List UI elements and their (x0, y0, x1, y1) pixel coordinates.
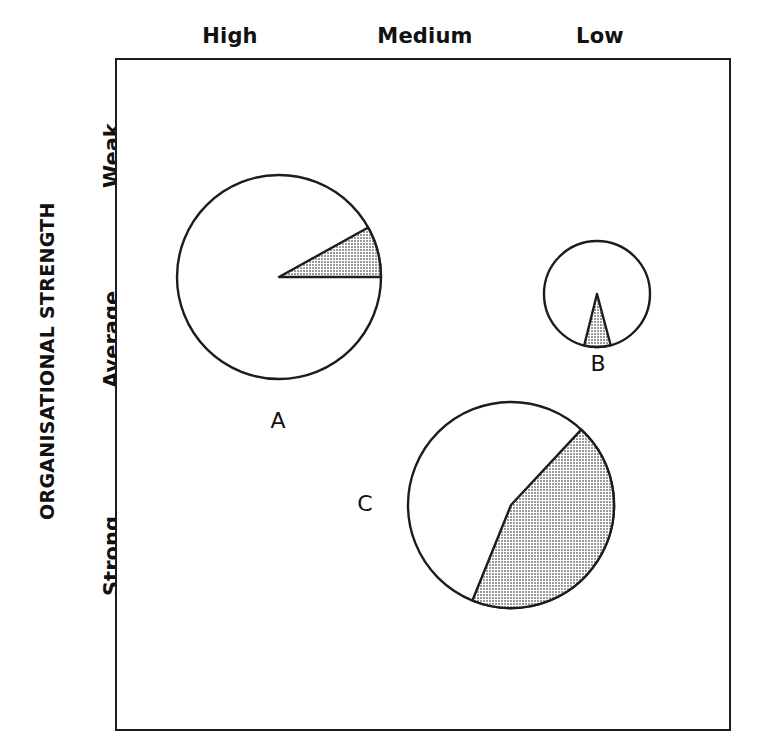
column-label-high: High (160, 24, 300, 48)
matrix-pie-chart-figure: High Medium Low Weak Average Strong ORGA… (0, 0, 760, 752)
pie-label-c: C (345, 491, 385, 516)
pie-label-b: B (578, 351, 618, 376)
plot-area-frame (115, 58, 731, 731)
pie-label-a: A (258, 408, 298, 433)
column-label-medium: Medium (355, 24, 495, 48)
y-axis-title: ORGANISATIONAL STRENGTH (36, 202, 58, 520)
column-label-low: Low (540, 24, 660, 48)
